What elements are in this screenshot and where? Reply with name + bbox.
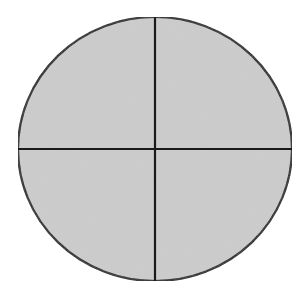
quartered-circle-diagram	[0, 0, 306, 289]
